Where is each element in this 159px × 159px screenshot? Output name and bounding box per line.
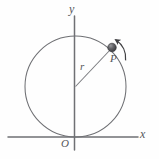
motion-arrow bbox=[116, 40, 126, 60]
y-axis-label: y bbox=[69, 3, 74, 15]
radius-label: r bbox=[80, 61, 84, 72]
particle-ball bbox=[108, 43, 117, 52]
diagram-canvas bbox=[0, 0, 159, 159]
physics-diagram-figure: y x O r P bbox=[0, 0, 159, 159]
particle-label: P bbox=[110, 53, 117, 64]
origin-label: O bbox=[61, 138, 69, 149]
x-axis-label: x bbox=[140, 128, 145, 140]
